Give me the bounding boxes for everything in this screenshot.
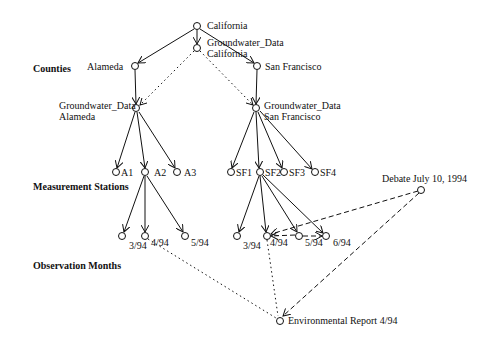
label-sf1: SF1 [236,167,252,178]
node-alameda [132,63,139,70]
edge-alameda-gwala [135,70,136,104]
label-san-francisco: San Francisco [265,61,321,72]
label-env-report: Environmental Report 4/94 [288,315,397,326]
label-gw-sf-2: San Francisco [264,111,320,122]
label-a2-5-94: 5/94 [191,237,209,248]
node-san-francisco [254,63,261,70]
label-sf4: SF4 [320,167,336,178]
label-a2-3-94: 3/94 [129,240,147,251]
label-sf2-4-94: 4/94 [270,237,288,248]
label-sf2-3-94: 3/94 [243,240,261,251]
node-gw-sf [253,105,260,112]
edge-sf-gwsf [256,70,257,104]
edge-california-alameda [138,29,194,63]
level-label-counties: Counties [33,63,71,74]
label-gw-sf-1: Groundwater_Data [264,100,341,111]
label-alameda: Alameda [87,61,123,72]
label-a2: A2 [154,167,166,178]
label-debate: Debate July 10, 1994 [382,173,467,184]
label-sf3: SF3 [289,167,305,178]
label-a1: A1 [121,167,133,178]
level-label-months: Observation Months [33,260,121,271]
node-gw-california [194,45,201,52]
level-label-stations: Measurement Stations [33,181,129,192]
label-a3: A3 [184,167,196,178]
label-california: California [207,20,248,31]
label-gw-alameda-1: Groundwater_Data [59,100,136,111]
label-sf2: SF2 [265,167,281,178]
node-debate [418,187,425,194]
label-a2-4-94: 4/94 [151,237,169,248]
label-sf2-6-94: 6/94 [333,237,351,248]
label-gw-alameda-2: Alameda [59,111,95,122]
label-gw-california-1: Groundwater_Data [207,37,284,48]
node-california [194,23,201,30]
label-sf2-5-94: 5/94 [305,237,323,248]
label-gw-california-2: California [207,48,248,59]
node-env-report [277,318,284,325]
